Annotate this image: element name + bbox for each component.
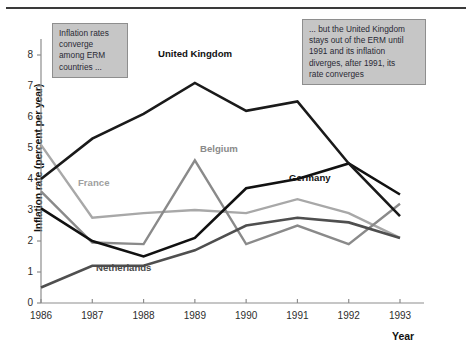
x-tick-label: 1990 [226, 310, 266, 321]
x-tick-label: 1991 [277, 310, 317, 321]
series-line-belgium [41, 160, 400, 244]
x-tick-label: 1993 [380, 310, 420, 321]
y-tick-label: 3 [15, 204, 33, 215]
chart-figure: Inflation rate (percent per year) Year I… [0, 0, 472, 353]
x-tick-label: 1987 [72, 310, 112, 321]
series-label-france: France [78, 177, 109, 188]
x-tick-label: 1988 [124, 310, 164, 321]
x-tick-label: 1986 [21, 310, 61, 321]
y-tick-label: 4 [15, 173, 33, 184]
plot-area [0, 0, 472, 353]
series-label-germany: Germany [289, 172, 331, 183]
series-label-united-kingdom: United Kingdom [158, 48, 232, 59]
y-tick-label: 1 [15, 266, 33, 277]
y-tick-label: 8 [15, 49, 33, 60]
y-tick-label: 2 [15, 235, 33, 246]
y-tick-label: 5 [15, 142, 33, 153]
y-tick-label: 7 [15, 80, 33, 91]
series-label-belgium: Belgium [200, 143, 238, 154]
series-line-netherlands [41, 218, 400, 288]
series-label-netherlands: Netherlands [96, 262, 151, 273]
x-tick-label: 1989 [175, 310, 215, 321]
x-tick-label: 1992 [329, 310, 369, 321]
y-tick-label: 6 [15, 111, 33, 122]
y-tick-label: 0 [15, 297, 33, 308]
